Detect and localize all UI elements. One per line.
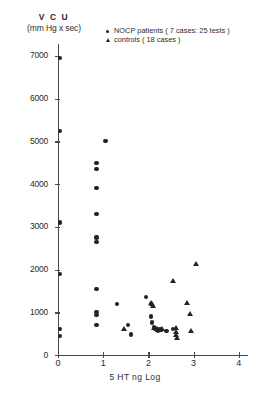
data-point-circle xyxy=(94,161,98,165)
y-tick-label-3000: 3000 xyxy=(14,222,48,230)
x-tick-label-4: 4 xyxy=(230,358,248,368)
data-point-circle xyxy=(126,323,130,327)
x-axis-line xyxy=(58,355,248,356)
data-point-circle xyxy=(58,272,62,276)
circle-marker-icon xyxy=(104,26,111,35)
y-axis-title-line2: (mm Hg x sec) xyxy=(16,23,92,34)
data-point-triangle xyxy=(150,303,156,308)
data-point-circle xyxy=(94,167,98,171)
x-tick-label-3: 3 xyxy=(185,358,203,368)
data-point-triangle xyxy=(159,326,165,331)
x-tick-label-1: 1 xyxy=(94,358,112,368)
y-tick-2000 xyxy=(55,270,60,271)
data-point-triangle xyxy=(188,328,194,333)
legend-item-controls: controls ( 18 cases ) xyxy=(104,35,230,44)
data-point-circle xyxy=(58,220,62,224)
data-point-circle xyxy=(144,295,148,299)
data-point-circle xyxy=(164,329,168,333)
data-point-circle xyxy=(129,332,133,336)
legend-label-nocp-patients: NOCP patients ( 7 cases: 25 tests ) xyxy=(114,26,230,35)
data-point-circle xyxy=(58,56,62,60)
x-tick-label-2: 2 xyxy=(139,358,157,368)
y-tick-5000 xyxy=(55,141,60,142)
data-point-circle xyxy=(94,287,98,291)
y-axis-title-line1: V C U xyxy=(16,12,92,23)
y-tick-label-7000: 7000 xyxy=(14,51,48,59)
y-tick-label-6000: 6000 xyxy=(14,94,48,102)
data-point-circle xyxy=(94,313,98,317)
data-point-circle xyxy=(94,186,98,190)
legend-item-nocp-patients: NOCP patients ( 7 cases: 25 tests ) xyxy=(104,26,230,35)
y-tick-1000 xyxy=(55,312,60,313)
data-point-triangle xyxy=(121,326,127,331)
y-tick-label-0: 0 xyxy=(14,351,48,359)
y-tick-3000 xyxy=(55,227,60,228)
data-point-triangle xyxy=(193,261,199,266)
y-tick-6000 xyxy=(55,99,60,100)
data-point-triangle xyxy=(187,311,193,316)
legend: NOCP patients ( 7 cases: 25 tests ) cont… xyxy=(104,26,230,45)
y-tick-label-4000: 4000 xyxy=(14,180,48,188)
legend-label-controls: controls ( 18 cases ) xyxy=(114,35,181,44)
y-tick-4000 xyxy=(55,184,60,185)
data-point-triangle xyxy=(184,300,190,305)
y-axis-line xyxy=(58,44,59,356)
x-axis-title: 5 HT ng Log xyxy=(60,372,210,382)
data-point-circle xyxy=(94,240,98,244)
y-tick-label-1000: 1000 xyxy=(14,308,48,316)
triangle-marker-icon xyxy=(104,35,111,44)
data-point-circle xyxy=(58,334,62,338)
data-point-circle xyxy=(94,323,98,327)
data-point-triangle xyxy=(174,335,180,340)
scatter-plot-figure: V C U (mm Hg x sec) NOCP patients ( 7 ca… xyxy=(0,0,258,408)
data-point-circle xyxy=(103,139,107,143)
data-point-triangle xyxy=(170,278,176,283)
data-point-circle xyxy=(150,320,154,324)
data-point-circle xyxy=(58,327,62,331)
y-tick-label-2000: 2000 xyxy=(14,265,48,273)
x-tick-label-0: 0 xyxy=(49,358,67,368)
data-point-circle xyxy=(94,212,98,216)
y-axis-title: V C U (mm Hg x sec) xyxy=(16,12,92,34)
data-point-circle xyxy=(94,235,98,239)
data-point-circle xyxy=(115,302,119,306)
data-point-circle xyxy=(149,314,153,318)
y-tick-label-5000: 5000 xyxy=(14,137,48,145)
data-point-circle xyxy=(58,129,62,133)
